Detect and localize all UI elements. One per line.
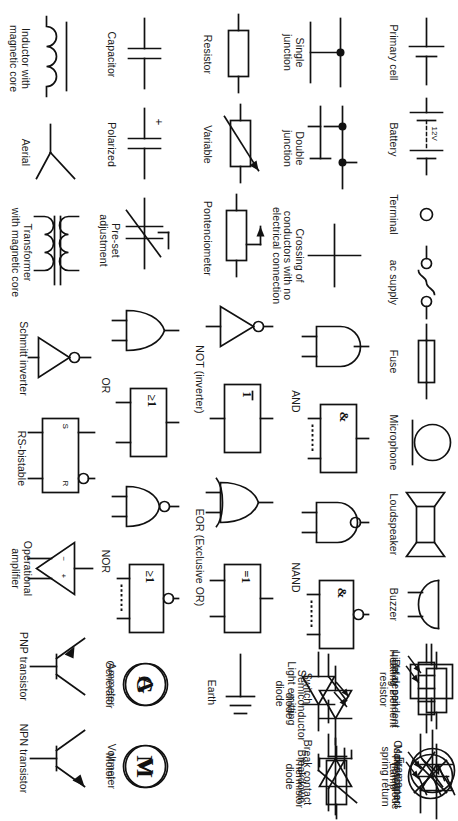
symbol-label: Thermistor <box>293 744 305 820</box>
symbol-label: Voltmeter <box>105 728 117 804</box>
page-rotation-wrapper: Primary cell 12V Battery Terminal <box>0 0 458 821</box>
symbol-label: Earth <box>205 650 217 734</box>
thermistor-icon <box>308 744 362 820</box>
voltmeter-glyph: V <box>133 758 158 774</box>
symbol-row-thermistor-2 <box>362 0 458 821</box>
voltmeter-icon: V <box>120 728 172 804</box>
symbol-row-frame: Frame <box>266 0 362 821</box>
symbol-row-meters: A Ammeter V Voltmeter <box>0 0 80 821</box>
ammeter-glyph: A <box>133 676 158 692</box>
ammeter-icon: A <box>120 646 172 722</box>
earth-icon <box>216 650 262 734</box>
symbol-label: Ammeter <box>105 646 117 722</box>
circuit-symbols-sheet: Primary cell 12V Battery Terminal <box>0 0 458 821</box>
